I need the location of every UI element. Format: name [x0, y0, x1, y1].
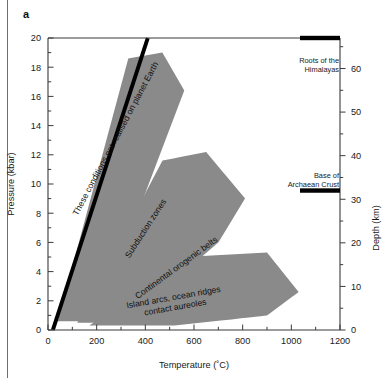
y-tick-label: 20 [31, 33, 41, 43]
annotation-line-1: Base of [288, 171, 339, 180]
y-tick-label: 0 [36, 325, 41, 335]
x-tick-label: 1200 [330, 336, 350, 346]
x-tick-label: 800 [235, 336, 250, 346]
y-tick-label: 18 [31, 63, 41, 73]
y-tick-label: 4 [36, 267, 41, 277]
x-tick-label: 200 [89, 336, 104, 346]
y2-tick-label: 60 [351, 64, 361, 74]
y-tick-label: 2 [36, 296, 41, 306]
annotation-line-2: Archaean Crust [288, 180, 339, 189]
y-axis-title: Pressure (kbar) [6, 152, 16, 215]
x-axis-title: Temperature (˚C) [159, 360, 229, 370]
y2-tick-label: 10 [351, 282, 361, 292]
x-tick-label: 1000 [281, 336, 301, 346]
y2-tick-label: 40 [351, 151, 361, 161]
x-tick-label: 0 [45, 336, 50, 346]
y-tick-label: 8 [36, 209, 41, 219]
y-tick-label: 10 [31, 179, 41, 189]
annotation-line-1: Roots of the [299, 56, 339, 65]
y2-tick-label: 20 [351, 238, 361, 248]
y2-axis-title: Depth (km) [371, 205, 381, 250]
y2-tick-label: 0 [351, 325, 356, 335]
figure-panel-a: a 02004006008001000120002468101214161820… [0, 0, 391, 378]
y-tick-label: 6 [36, 238, 41, 248]
annotation-bar-roots-of-the-himalayas [300, 36, 340, 40]
y2-tick-label: 50 [351, 107, 361, 117]
x-tick-label: 400 [138, 336, 153, 346]
y-tick-label: 14 [31, 121, 41, 131]
y2-tick-label: 30 [351, 195, 361, 205]
y-tick-label: 16 [31, 92, 41, 102]
annotation-base-of-archaean-crust: Base of Archaean Crust [288, 171, 339, 189]
annotation-line-2: Himalayas [299, 65, 339, 74]
annotation-roots-of-the-himalayas: Roots of the Himalayas [299, 56, 339, 74]
x-tick-label: 600 [186, 336, 201, 346]
y-tick-label: 12 [31, 150, 41, 160]
